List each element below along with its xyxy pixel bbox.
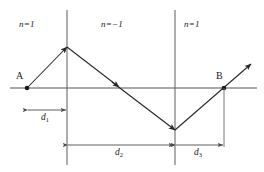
region-label-right: n=1	[184, 20, 200, 29]
ray-segment-exit	[175, 64, 251, 130]
dimension-label-d2: d2	[115, 148, 123, 158]
ray-diagram-svg	[0, 0, 264, 172]
dimension-subscript-d2: 2	[120, 151, 123, 158]
figure-canvas: n=1 n=−1 n=1 A B d1 d2 d3	[0, 0, 264, 172]
point-label-a: A	[16, 71, 23, 81]
region-label-left: n=1	[19, 20, 35, 29]
ray-segment-slab-upper	[67, 47, 119, 87]
dimension-subscript-d3: 3	[199, 151, 202, 158]
ray-segment-incident	[27, 47, 67, 88]
dimension-label-d1: d1	[41, 113, 49, 123]
dimension-label-d3: d3	[194, 148, 202, 158]
region-label-middle: n=−1	[101, 20, 123, 29]
dimension-subscript-d1: 1	[46, 116, 49, 123]
point-label-b: B	[216, 71, 223, 81]
ray-segment-slab-lower	[112, 82, 175, 130]
point-a-marker	[25, 86, 30, 91]
